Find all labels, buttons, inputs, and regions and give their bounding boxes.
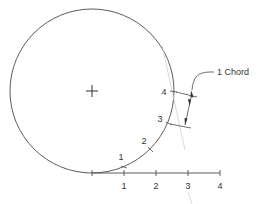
- circle-mark-label-1: 1: [118, 152, 123, 162]
- circle-marks: [121, 91, 177, 168]
- arrow-down-icon-top: [188, 99, 191, 106]
- arrow-up-icon: [191, 90, 194, 98]
- baseline-label-3: 3: [185, 181, 190, 191]
- construction-line-lower: [188, 192, 192, 204]
- construction-line: [162, 45, 185, 150]
- diagram-svg: 1 2 3 4 1 2 3 4 1 Chord: [0, 0, 257, 204]
- arrow-down-icon: [185, 118, 188, 125]
- center-mark-icon: [86, 85, 98, 97]
- circle-mark-label-3: 3: [157, 114, 162, 124]
- chord-diagram: 1 2 3 4 1 2 3 4 1 Chord: [0, 0, 257, 204]
- callout-leader: [192, 72, 214, 90]
- callout-label: 1 Chord: [217, 67, 249, 77]
- baseline-label-1: 1: [121, 181, 126, 191]
- circle-mark-label-4: 4: [161, 87, 166, 97]
- circle-mark-label-2: 2: [141, 136, 146, 146]
- baseline-label-2: 2: [153, 181, 158, 191]
- baseline-label-4: 4: [217, 181, 222, 191]
